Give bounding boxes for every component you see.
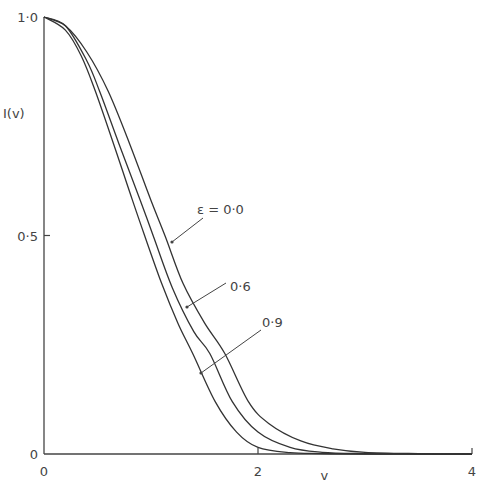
x-axis-label: v: [320, 468, 328, 483]
x-tick-label: 4: [468, 464, 476, 479]
chart: 02400·51·0I(v)v ε = 0·00·60·9: [0, 0, 494, 490]
arrowhead-icon: [170, 240, 173, 243]
x-tick-label: 0: [40, 464, 48, 479]
arrowhead-icon: [199, 371, 202, 374]
y-axis-label: I(v): [3, 106, 25, 121]
y-tick-label: 0·5: [17, 229, 38, 244]
y-tick-label: 0: [30, 447, 38, 462]
annotation-label: ε = 0·0: [197, 202, 244, 217]
annotation-label: 0·9: [262, 315, 283, 330]
series-line-0: [44, 17, 472, 454]
x-tick-label: 2: [254, 464, 262, 479]
annotations: ε = 0·00·60·9: [170, 202, 282, 375]
annotation-leader-line: [172, 218, 203, 242]
series-group: [44, 17, 472, 454]
y-tick-label: 1·0: [17, 10, 38, 25]
arrowhead-icon: [185, 305, 188, 308]
series-line-1: [44, 17, 472, 454]
series-line-2: [44, 17, 472, 454]
annotation-leader-line: [187, 283, 226, 307]
annotation-label: 0·6: [230, 279, 251, 294]
